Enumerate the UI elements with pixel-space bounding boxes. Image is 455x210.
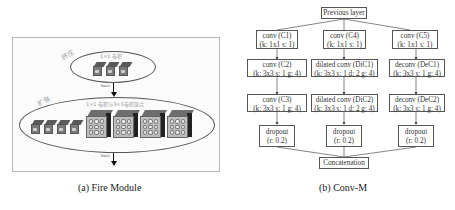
node-params: (k: 3x3 s: 1 g: 4)	[390, 105, 444, 114]
dilated-conv-dic1-node: dilated conv (DiC1)(k: 3x3 s: 1 d: 2 g: …	[311, 59, 378, 77]
node-params: (k: 3x3 s: 1 g: 4)	[248, 70, 306, 79]
previous-layer-node: Previous layer	[321, 7, 367, 19]
conv-c1-node: conv (C1)(k: 1x1 s: 1)	[256, 30, 298, 49]
concatenation-node: Concatenation	[319, 157, 369, 169]
node-params: (k: 3x3 s: 1 g: 4)	[248, 105, 306, 114]
node-params: (r: 0.2)	[327, 137, 361, 146]
conv-c2-node: conv (C2)(k: 3x3 s: 1 g: 4)	[247, 59, 307, 77]
node-name: deconv (DeC2)	[390, 96, 444, 105]
node-params: (k: 1x1 s: 1)	[393, 41, 437, 50]
node-name: dropout	[327, 128, 361, 137]
conv-m-connectors	[0, 0, 455, 210]
node-params: (k: 1x1 s: 1)	[324, 41, 365, 50]
node-name: dilated conv (DiC2)	[312, 96, 377, 105]
dropout-node-2: dropout(r: 0.2)	[326, 125, 362, 147]
node-name: dropout	[399, 128, 433, 137]
deconv-dec1-node: deconv (DeC1)(k: 3x3 s: 1 g: 4)	[389, 59, 445, 77]
node-params: (k: 1x1 s: 1)	[257, 41, 297, 50]
previous-layer-label: Previous layer	[323, 9, 364, 17]
node-params: (k: 3x3 s: 1 d: 2 g: 4)	[312, 105, 377, 114]
dilated-conv-dic2-node: dilated conv (DiC2)(k: 3x3 s: 1 d: 2 g: …	[311, 94, 378, 112]
node-params: (r: 0.2)	[399, 137, 433, 146]
node-name: dropout	[260, 128, 294, 137]
node-name: deconv (DeC1)	[390, 61, 444, 70]
node-name: dilated conv (DiC1)	[312, 61, 377, 70]
dropout-node-1: dropout(r: 0.2)	[259, 125, 295, 147]
node-name: conv (C2)	[248, 61, 306, 70]
conv-c5-node: conv (C5)(k: 1x1 s: 1)	[392, 30, 438, 49]
node-params: (k: 3x3 s: 1 g: 4)	[390, 70, 444, 79]
concatenation-label: Concatenation	[323, 159, 365, 167]
deconv-dec2-node: deconv (DeC2)(k: 3x3 s: 1 g: 4)	[389, 94, 445, 112]
conv-m-caption: (b) Conv-M	[319, 182, 367, 193]
node-name: conv (C1)	[257, 32, 297, 41]
conv-c4-node: conv (C4)(k: 1x1 s: 1)	[323, 30, 366, 49]
node-name: conv (C5)	[393, 32, 437, 41]
conv-c3-node: conv (C3)(k: 3x3 s: 1 g: 4)	[247, 94, 307, 112]
node-params: (r: 0.2)	[260, 137, 294, 146]
node-name: conv (C4)	[324, 32, 365, 41]
node-params: (k: 3x3 s: 1 d: 2 g: 4)	[312, 70, 377, 79]
dropout-node-3: dropout(r: 0.2)	[398, 125, 434, 147]
node-name: conv (C3)	[248, 96, 306, 105]
